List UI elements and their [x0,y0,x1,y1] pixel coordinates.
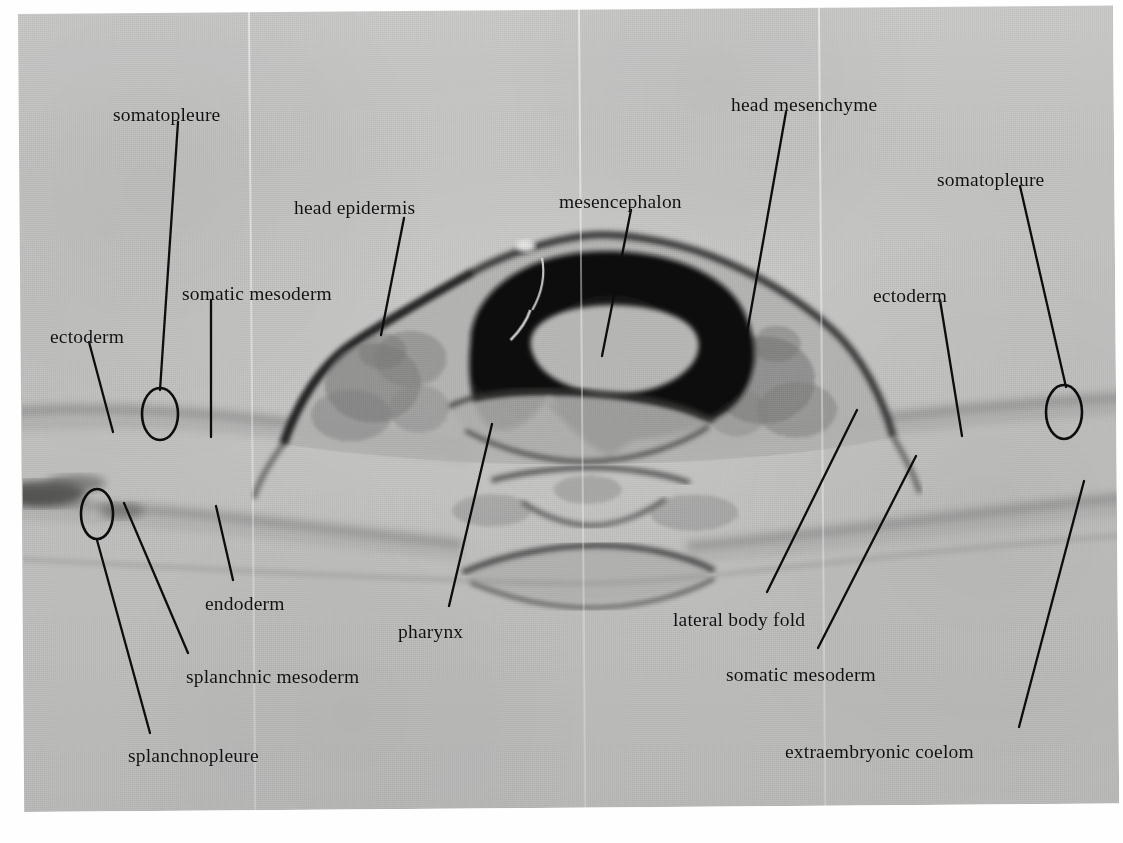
leader-somatopleure-left [160,122,178,390]
label-head-mesenchyme: head mesenchyme [731,95,877,115]
label-somatopleure-right: somatopleure [937,170,1044,190]
label-endoderm: endoderm [205,594,285,614]
leader-mesencephalon [602,210,631,356]
leader-splanchnic-mesoderm [124,503,188,653]
label-somatic-mesoderm-right: somatic mesoderm [726,665,876,685]
leader-ectoderm-right [940,300,962,436]
annotation-overlay [0,0,1123,843]
leader-somatopleure-right [1020,186,1066,387]
label-mesencephalon: mesencephalon [559,192,682,212]
label-ectoderm-right: ectoderm [873,286,947,306]
leader-pharynx [449,424,492,606]
leader-ectoderm-left [89,342,113,432]
marker-splanchnopleure [81,489,113,539]
leader-head-epidermis [381,218,404,335]
leader-somatic-mesoderm-right [818,456,916,648]
label-somatic-mesoderm-left: somatic mesoderm [182,284,332,304]
label-extraembryonic-coelom: extraembryonic coelom [785,742,974,762]
marker-somatopleure-left [142,388,178,440]
label-splanchnic-mesoderm: splanchnic mesoderm [186,667,359,687]
leader-extraembryonic-coelom [1019,481,1084,727]
label-splanchnopleure: splanchnopleure [128,746,259,766]
label-lateral-body-fold: lateral body fold [673,610,805,630]
label-ectoderm-left: ectoderm [50,327,124,347]
label-head-epidermis: head epidermis [294,198,415,218]
figure-micrograph-plate: somatopleurehead mesenchymesomatopleureh… [0,0,1123,843]
region-markers [81,385,1082,539]
leader-lateral-body-fold [767,410,857,592]
marker-somatopleure-right [1046,385,1082,439]
label-pharynx: pharynx [398,622,463,642]
leader-endoderm [216,506,233,580]
leader-head-mesenchyme [742,112,786,361]
label-somatopleure-left: somatopleure [113,105,220,125]
leader-splanchnopleure [97,540,150,733]
